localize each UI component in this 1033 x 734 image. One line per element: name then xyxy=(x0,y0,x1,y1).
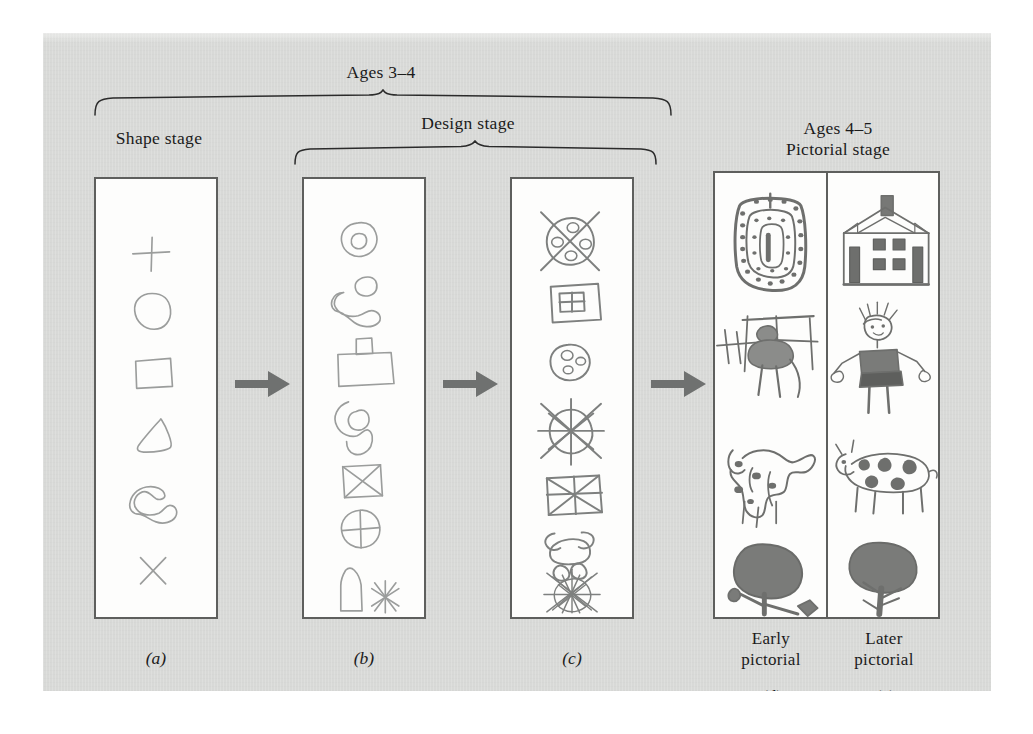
arrow-b-to-c xyxy=(443,369,499,399)
panel-letter-e: (e) xyxy=(854,686,914,691)
stage-panel-c[interactable] xyxy=(510,177,634,619)
panel-e-drawings xyxy=(828,173,939,617)
panel-c-drawings xyxy=(512,179,632,617)
panel-a-drawings xyxy=(96,179,216,617)
stage-panel-b[interactable] xyxy=(302,177,426,619)
panel-letter-c: (c) xyxy=(542,648,602,669)
design-stage-label: Design stage xyxy=(378,113,558,134)
panel-letter-d: (d) xyxy=(741,686,801,691)
panel-letter-a: (a) xyxy=(126,648,186,669)
panel-letter-b: (b) xyxy=(334,648,394,669)
panel-e-subcaption-line1: Later xyxy=(828,629,940,649)
panel-b-drawings xyxy=(304,179,424,617)
stage-panel-a[interactable] xyxy=(94,177,218,619)
pictorial-stage-heading-line1: Ages 4–5 xyxy=(743,118,933,139)
brace-design-stage xyxy=(293,140,693,166)
pictorial-stage-heading-line2: Pictorial stage xyxy=(743,139,933,160)
panel-d-subcaption-line2: pictorial xyxy=(715,650,827,670)
shape-stage-label: Shape stage xyxy=(69,128,249,149)
arrow-a-to-b xyxy=(235,369,291,399)
panel-e-subcaption-line2: pictorial xyxy=(828,650,940,670)
ages-3-4-label: Ages 3–4 xyxy=(301,62,461,83)
panel-d-subcaption-line1: Early xyxy=(715,629,827,649)
stage-panel-d[interactable] xyxy=(715,173,826,617)
figure-plate: Ages 3–4 Design stage Shape stage Ages 4… xyxy=(43,33,991,691)
stage-panel-pictorial-pair[interactable] xyxy=(713,171,940,619)
arrow-c-to-d xyxy=(651,369,707,399)
stage-panel-e[interactable] xyxy=(826,173,939,617)
panel-d-drawings xyxy=(715,173,826,617)
